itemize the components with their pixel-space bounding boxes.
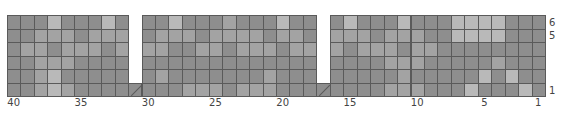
stitch-cell xyxy=(20,69,34,84)
stitch-cell xyxy=(168,29,182,44)
stitch-cell xyxy=(61,42,75,57)
stitch-cell xyxy=(451,15,465,30)
stitch-cell xyxy=(491,69,505,84)
stitch-cell xyxy=(330,15,344,30)
stitch-cell xyxy=(263,15,277,30)
stitch-cell xyxy=(451,42,465,57)
stitch-cell xyxy=(303,15,317,30)
stitch-cell xyxy=(370,15,384,30)
stitch-cell xyxy=(20,83,34,98)
stitch-cell xyxy=(142,83,156,98)
stitch-cell xyxy=(115,42,129,57)
stitch-cell xyxy=(61,56,75,71)
stitch-cell xyxy=(411,69,425,84)
stitch-cell xyxy=(343,29,357,44)
x-axis-tick-label: 25 xyxy=(209,97,222,108)
x-axis-tick-label: 35 xyxy=(75,97,88,108)
stitch-cell xyxy=(7,29,21,44)
stitch-cell xyxy=(34,69,48,84)
stitch-cell xyxy=(88,56,102,71)
stitch-cell xyxy=(424,56,438,71)
y-axis-tick-label: 5 xyxy=(549,30,555,41)
stitch-cell xyxy=(330,69,344,84)
stitch-cell xyxy=(20,15,34,30)
slashed-stitch-cell xyxy=(316,83,330,98)
stitch-cell xyxy=(222,29,236,44)
stitch-cell xyxy=(464,69,478,84)
stitch-cell xyxy=(451,83,465,98)
y-axis-tick-label: 6 xyxy=(549,16,555,27)
stitch-cell xyxy=(88,42,102,57)
stitch-cell xyxy=(397,29,411,44)
stitch-cell xyxy=(491,56,505,71)
stitch-cell xyxy=(289,83,303,98)
stitch-cell xyxy=(424,83,438,98)
stitch-cell xyxy=(437,56,451,71)
stitch-cell xyxy=(276,42,290,57)
stitch-cell xyxy=(263,83,277,98)
stitch-cell xyxy=(424,29,438,44)
stitch-cell xyxy=(236,42,250,57)
stitch-cell xyxy=(303,83,317,98)
stitch-cell xyxy=(357,56,371,71)
stitch-cell xyxy=(7,42,21,57)
stitch-cell xyxy=(74,83,88,98)
stitch-cell xyxy=(209,56,223,71)
stitch-cell xyxy=(370,69,384,84)
stitch-cell xyxy=(289,42,303,57)
stitch-cell xyxy=(263,56,277,71)
stitch-cell xyxy=(222,83,236,98)
stitch-cell xyxy=(518,69,532,84)
stitch-cell xyxy=(491,42,505,57)
stitch-cell xyxy=(343,15,357,30)
stitch-cell xyxy=(370,29,384,44)
stitch-cell xyxy=(236,69,250,84)
stitch-cell xyxy=(20,56,34,71)
stitch-cell xyxy=(168,42,182,57)
stitch-cell xyxy=(384,56,398,71)
stitch-cell xyxy=(411,83,425,98)
stitch-cell xyxy=(101,56,115,71)
stitch-cell xyxy=(115,69,129,84)
stitch-cell xyxy=(505,29,519,44)
stitch-cell xyxy=(195,56,209,71)
stitch-cell xyxy=(182,15,196,30)
stitch-cell xyxy=(478,69,492,84)
stitch-cell xyxy=(74,42,88,57)
stitch-cell xyxy=(101,29,115,44)
stitch-cell xyxy=(7,56,21,71)
x-axis-tick-label: 5 xyxy=(481,97,487,108)
stitch-cell xyxy=(115,29,129,44)
stitch-cell xyxy=(370,56,384,71)
stitch-cell xyxy=(532,42,546,57)
stitch-cell xyxy=(155,15,169,30)
stitch-cell xyxy=(249,56,263,71)
stitch-cell xyxy=(101,15,115,30)
stitch-cell xyxy=(61,83,75,98)
stitch-cell xyxy=(384,42,398,57)
stitch-cell xyxy=(236,29,250,44)
stitch-cell xyxy=(47,42,61,57)
stitch-cell xyxy=(478,56,492,71)
stitch-cell xyxy=(437,42,451,57)
stitch-cell xyxy=(222,42,236,57)
stitch-cell xyxy=(195,83,209,98)
stitch-cell xyxy=(142,69,156,84)
stitch-cell xyxy=(437,15,451,30)
stitch-cell xyxy=(182,56,196,71)
stitch-cell xyxy=(182,29,196,44)
stitch-cell xyxy=(505,69,519,84)
stitch-cell xyxy=(303,29,317,44)
stitch-cell xyxy=(249,83,263,98)
stitch-cell xyxy=(397,83,411,98)
stitch-cell xyxy=(20,29,34,44)
stitch-cell xyxy=(289,69,303,84)
stitch-cell xyxy=(491,29,505,44)
stitch-cell xyxy=(464,15,478,30)
stitch-cell xyxy=(222,56,236,71)
stitch-cell xyxy=(236,15,250,30)
x-axis-tick-label: 10 xyxy=(411,97,424,108)
stitch-cell xyxy=(142,29,156,44)
stitch-cell xyxy=(34,42,48,57)
stitch-cell xyxy=(142,56,156,71)
